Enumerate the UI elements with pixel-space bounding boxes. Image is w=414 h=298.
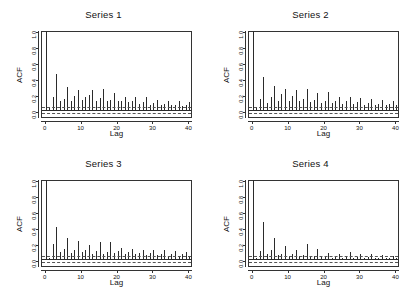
x-tick-mark — [45, 270, 46, 273]
y-tick-label: 0.6 — [238, 63, 244, 71]
acf-bar — [253, 31, 254, 111]
y-tick-label: 0.4 — [238, 228, 244, 236]
confidence-lower-line — [249, 113, 398, 114]
x-tick-mark — [117, 121, 118, 124]
confidence-upper-line — [42, 256, 191, 257]
x-axis-label: Lag — [41, 278, 192, 287]
x-tick-mark — [395, 121, 396, 124]
acf-bar — [78, 241, 79, 260]
x-tick-mark — [45, 121, 46, 124]
x-tick-mark — [359, 121, 360, 124]
x-axis-label: Lag — [248, 129, 399, 138]
acf-bar — [100, 242, 101, 260]
y-tick-label: 0.0 — [238, 260, 244, 268]
acf-bar — [135, 97, 136, 111]
plot-area — [41, 31, 192, 118]
y-axis-label: ACF — [14, 180, 24, 267]
panel-title: Series 1 — [0, 9, 207, 20]
panel-title: Series 4 — [207, 158, 414, 169]
acf-bars — [249, 181, 398, 266]
plot-area — [41, 180, 192, 267]
confidence-upper-line — [249, 256, 398, 257]
confidence-lower-line — [42, 262, 191, 263]
y-axis-ticks: 0.00.20.40.60.81.0 — [28, 31, 39, 118]
x-tick-mark — [324, 270, 325, 273]
panel-title: Series 3 — [0, 158, 207, 169]
acf-bar — [271, 97, 272, 111]
y-tick-label: 1.0 — [238, 180, 244, 188]
acf-bar — [350, 97, 351, 111]
y-tick-label: 1.0 — [31, 180, 37, 188]
y-tick-label: 1.0 — [238, 31, 244, 39]
acf-bar — [89, 245, 90, 260]
x-tick-mark — [359, 270, 360, 273]
y-tick-label: 0.6 — [238, 212, 244, 220]
acf-bar — [263, 77, 264, 111]
zero-line — [42, 110, 191, 111]
plot-area — [248, 31, 399, 118]
acf-bar — [307, 244, 308, 260]
x-tick-mark — [288, 121, 289, 124]
acf-bar — [53, 244, 54, 260]
acf-bar — [114, 93, 115, 111]
x-axis-label: Lag — [41, 129, 192, 138]
acf-bar — [46, 180, 47, 260]
acf-bar — [339, 97, 340, 111]
acf-bar — [253, 180, 254, 260]
x-tick-mark — [81, 270, 82, 273]
x-tick-mark — [324, 121, 325, 124]
y-tick-label: 0.4 — [31, 228, 37, 236]
y-tick-label: 0.0 — [31, 111, 37, 119]
acf-bar — [263, 222, 264, 260]
x-tick-mark — [188, 270, 189, 273]
x-tick-mark — [152, 121, 153, 124]
y-tick-label: 0.0 — [238, 111, 244, 119]
y-tick-label: 0.4 — [238, 79, 244, 87]
y-tick-label: 0.6 — [31, 212, 37, 220]
panel-title: Series 2 — [207, 9, 414, 20]
y-tick-label: 0.2 — [238, 95, 244, 103]
zero-line — [42, 259, 191, 260]
y-tick-label: 0.0 — [31, 260, 37, 268]
x-tick-mark — [81, 121, 82, 124]
acf-bar — [53, 97, 54, 111]
acf-bar — [56, 74, 57, 111]
acf-panel-series-2: Series 2 ACF 0.00.20.40.60.81.0 01020304… — [207, 0, 414, 149]
acf-bar — [328, 92, 329, 111]
acf-panel-series-4: Series 4 ACF 0.00.20.40.60.81.0 01020304… — [207, 149, 414, 298]
y-axis-label: ACF — [14, 31, 24, 118]
zero-line — [249, 259, 398, 260]
x-tick-mark — [188, 121, 189, 124]
acf-bar — [110, 242, 111, 260]
y-tick-label: 0.8 — [31, 47, 37, 55]
acf-bar — [125, 97, 126, 111]
acf-bars — [42, 32, 191, 117]
confidence-upper-line — [42, 107, 191, 108]
y-tick-label: 0.2 — [31, 244, 37, 252]
acf-panel-series-1: Series 1 ACF 0.00.20.40.60.81.0 01020304… — [0, 0, 207, 149]
y-tick-label: 0.4 — [31, 79, 37, 87]
y-tick-label: 0.6 — [31, 63, 37, 71]
acf-bar — [317, 93, 318, 111]
x-tick-mark — [252, 270, 253, 273]
x-axis-label: Lag — [248, 278, 399, 287]
x-tick-mark — [288, 270, 289, 273]
y-tick-label: 1.0 — [31, 31, 37, 39]
plot-area — [248, 180, 399, 267]
y-axis-label: ACF — [221, 180, 231, 267]
y-axis-label: ACF — [221, 31, 231, 118]
x-tick-mark — [152, 270, 153, 273]
y-tick-label: 0.2 — [238, 244, 244, 252]
acf-bar — [285, 246, 286, 260]
acf-bar — [85, 97, 86, 111]
acf-bar — [74, 96, 75, 111]
x-tick-mark — [395, 270, 396, 273]
zero-line — [249, 110, 398, 111]
confidence-lower-line — [42, 113, 191, 114]
acf-bar — [89, 95, 90, 111]
y-tick-label: 0.8 — [238, 196, 244, 204]
y-tick-label: 0.2 — [31, 95, 37, 103]
y-axis-ticks: 0.00.20.40.60.81.0 — [28, 180, 39, 267]
acf-bar — [292, 96, 293, 111]
confidence-upper-line — [249, 107, 398, 108]
